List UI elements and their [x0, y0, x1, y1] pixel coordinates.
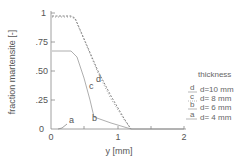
legend: thickness d d=10 mm c d= 8 mm b d= 6 mm … — [186, 70, 234, 122]
legend-label-d: d=10 mm — [200, 85, 234, 94]
annotation-d: d — [96, 74, 101, 84]
x-axis-label: y [mm] — [106, 146, 133, 156]
y-ticks — [51, 13, 55, 100]
y-tick-label: .50 — [35, 66, 48, 76]
y-tick-label: .75 — [35, 37, 48, 47]
legend-title: thickness — [198, 70, 231, 79]
y-tick-label: 0 — [39, 124, 44, 134]
annotation-c: c — [89, 81, 94, 91]
legend-label-b: d= 6 mm — [200, 103, 232, 112]
legend-label-c: d= 8 mm — [200, 94, 232, 103]
legend-label-a: d= 4 mm — [200, 113, 232, 122]
legend-key-a: a — [190, 110, 195, 119]
x-ticks — [84, 126, 184, 129]
annotation-b: b — [92, 113, 97, 123]
chart: 0 .25 .50 .75 1 0 1 2 y [mm] fraction ma… — [0, 0, 250, 163]
x-tick-label: 0 — [48, 132, 53, 142]
legend-key-b: b — [190, 100, 195, 109]
x-tick-label: 1 — [115, 132, 120, 142]
x-tick-label: 2 — [181, 132, 186, 142]
y-tick-label: 1 — [41, 8, 46, 18]
annotation-a: a — [69, 115, 74, 125]
y-tick-label: .25 — [35, 95, 48, 105]
curve-a — [58, 124, 67, 129]
y-axis-label: fraction martensite [-] — [7, 30, 17, 115]
legend-key-d: d — [190, 83, 194, 92]
